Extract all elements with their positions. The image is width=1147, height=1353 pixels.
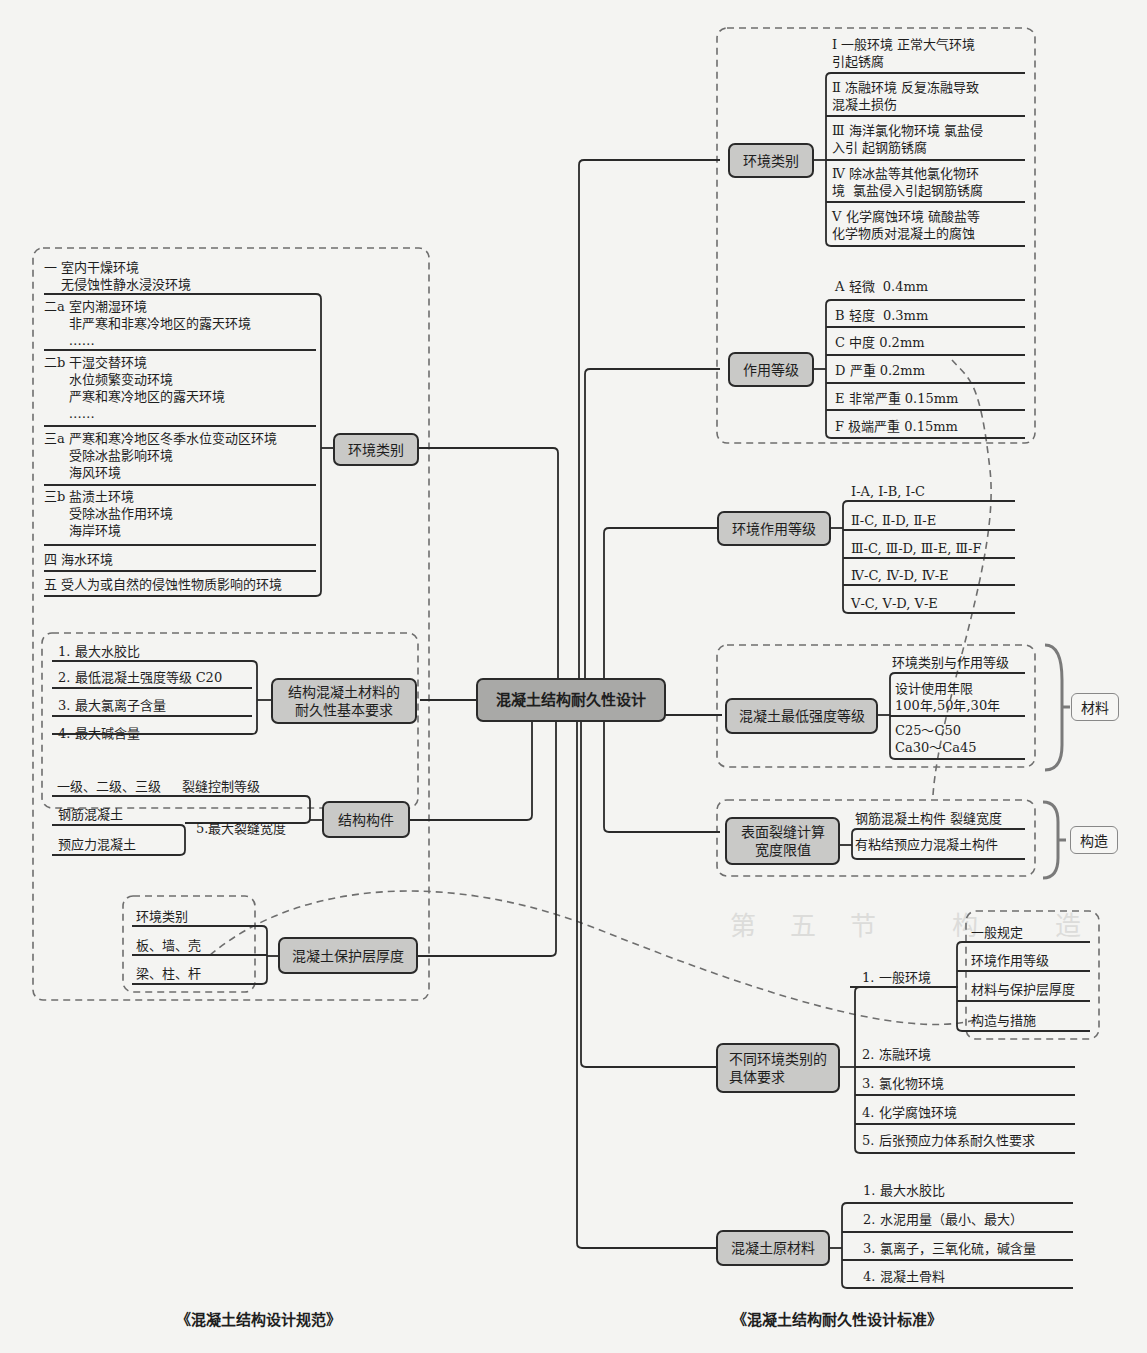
specific-req-node[interactable]: 不同环境类别的 具体要求 (716, 1043, 840, 1093)
left-env-category-node[interactable]: 环境类别 (333, 433, 419, 466)
raw-material-item: 2. 水泥用量（最小、最大） (863, 1211, 1023, 1228)
node-label: 混凝土原材料 (731, 1239, 815, 1257)
structure-tag: 构造 (1070, 826, 1118, 854)
left-env-item-1: 一 室内干燥环境 无侵蚀性静水浸没环境 (44, 259, 191, 293)
action-grade-item: C 中度 0.2mm (835, 334, 925, 351)
left-env-item-2b: 二b 干湿交替环境 水位频繁变动环境 严寒和寒冷地区的露天环境 …… (44, 354, 225, 422)
node-label: 环境作用等级 (732, 520, 816, 538)
node-label: 作用等级 (743, 361, 799, 379)
left-env-item-3a: 三a 严寒和寒冷地区冬季水位变动区环境 受除冰盐影响环境 海风环境 (44, 430, 277, 481)
node-label: 环境类别 (743, 152, 799, 170)
right-env-category-node[interactable]: 环境类别 (728, 143, 814, 178)
node-label: 结构混凝土材料的 耐久性基本要求 (288, 683, 400, 719)
max-crack-width: 5.最大裂缝宽度 (196, 820, 286, 837)
general-env-label: 1. 一般环境 (862, 969, 931, 986)
material-req-node[interactable]: 结构混凝土材料的 耐久性基本要求 (271, 678, 417, 724)
structural-member-node[interactable]: 结构构件 (322, 801, 410, 838)
general-env-item: 一般规定 (971, 924, 1023, 941)
crack-limit-node[interactable]: 表面裂缝计算 宽度限值 (725, 817, 840, 865)
action-grade-item: A 轻微 0.4mm (835, 278, 928, 295)
specific-req-item: 4. 化学腐蚀环境 (862, 1104, 957, 1121)
env-action-grade-item: Ⅱ-C, Ⅱ-D, Ⅱ-E (851, 512, 936, 529)
right-source-caption: 《混凝土结构耐久性设计标准》 (732, 1308, 942, 1329)
action-grade-node[interactable]: 作用等级 (728, 352, 814, 387)
crack-limit-item: 钢筋混凝土构件 裂缝宽度 (855, 810, 1002, 827)
env-action-grade-node[interactable]: 环境作用等级 (717, 511, 831, 546)
material-req-item: 4. 最大碱含量 (58, 725, 140, 742)
node-label: 表面裂缝计算 宽度限值 (741, 823, 825, 859)
specific-req-item: 5. 后张预应力体系耐久性要求 (862, 1132, 1035, 1149)
general-env-item: 环境作用等级 (971, 952, 1049, 969)
node-label: 不同环境类别的 具体要求 (729, 1050, 827, 1086)
crack-control-grade: 一级、二级、三级 裂缝控制等级 (57, 778, 260, 795)
specific-req-item: 2. 冻融环境 (862, 1046, 931, 1063)
cover-item: 环境类别 (136, 908, 188, 925)
left-source-caption: 《混凝土结构设计规范》 (176, 1308, 341, 1329)
general-env-item: 构造与措施 (971, 1012, 1036, 1029)
action-grade-item: E 非常严重 0.15mm (835, 390, 958, 407)
min-strength-node[interactable]: 混凝土最低强度等级 (725, 698, 878, 734)
action-grade-item: F 极端严重 0.15mm (835, 418, 958, 435)
right-env-item-III: Ⅲ 海洋氯化物环境 氯盐侵 入引 起钢筋锈腐 (832, 122, 983, 156)
min-strength-item: C25～C50 Ca30～Ca45 (895, 722, 976, 756)
right-env-item-V: Ⅴ 化学腐蚀环境 硫酸盐等 化学物质对混凝土的腐蚀 (832, 208, 980, 242)
left-env-item-5: 五 受人为或自然的侵蚀性物质影响的环境 (44, 576, 282, 593)
raw-material-item: 3. 氯离子，三氧化硫，碱含量 (863, 1240, 1036, 1257)
material-req-item: 1. 最大水胶比 (58, 643, 140, 660)
action-grade-item: B 轻度 0.3mm (835, 307, 928, 324)
material-req-item: 3. 最大氯离子含量 (58, 697, 166, 714)
right-env-item-IV: Ⅳ 除冰盐等其他氯化物环 境 氯盐侵入引起钢筋锈腐 (832, 165, 983, 199)
min-strength-item: 环境类别与作用等级 (892, 654, 1009, 671)
env-action-grade-item: Ⅳ-C, Ⅳ-D, Ⅳ-E (851, 567, 949, 584)
crack-limit-item: 有粘结预应力混凝土构件 (855, 836, 998, 853)
material-tag: 材料 (1071, 693, 1119, 721)
rc-concrete: 钢筋混凝土 (58, 806, 123, 823)
right-env-item-I: Ⅰ 一般环境 正常大气环境 引起锈腐 (832, 36, 975, 70)
node-label: 混凝土最低强度等级 (739, 707, 865, 725)
left-env-item-3b: 三b 盐渍土环境 受除冰盐作用环境 海岸环境 (44, 488, 173, 539)
cover-item: 板、墙、壳 (136, 937, 201, 954)
specific-req-item: 3. 氯化物环境 (862, 1075, 944, 1092)
left-env-item-4: 四 海水环境 (44, 551, 113, 568)
raw-material-node[interactable]: 混凝土原材料 (716, 1230, 830, 1266)
action-grade-item: D 严重 0.2mm (835, 362, 925, 379)
env-action-grade-item: Ⅴ-C, Ⅴ-D, Ⅴ-E (851, 595, 938, 612)
env-action-grade-item: Ⅰ-A, Ⅰ-B, Ⅰ-C (851, 483, 925, 500)
node-label: 混凝土保护层厚度 (292, 947, 404, 965)
raw-material-item: 1. 最大水胶比 (863, 1182, 945, 1199)
node-label: 结构构件 (338, 811, 394, 829)
material-req-item: 2. 最低混凝土强度等级 C20 (58, 669, 222, 686)
root-node[interactable]: 混凝土结构耐久性设计 (476, 678, 666, 722)
root-label: 混凝土结构耐久性设计 (496, 691, 646, 709)
min-strength-item: 设计使用年限 100年,50年,30年 (895, 680, 1000, 714)
node-label: 环境类别 (348, 441, 404, 459)
general-env-item: 材料与保护层厚度 (971, 981, 1075, 998)
prestressed-concrete: 预应力混凝土 (58, 836, 136, 853)
cover-thickness-node[interactable]: 混凝土保护层厚度 (278, 937, 418, 974)
raw-material-item: 4. 混凝土骨料 (863, 1268, 945, 1285)
left-env-item-2a: 二a 室内潮湿环境 非严寒和非寒冷地区的露天环境 …… (44, 298, 251, 349)
env-action-grade-item: Ⅲ-C, Ⅲ-D, Ⅲ-E, Ⅲ-F (851, 540, 981, 557)
right-env-item-II: Ⅱ 冻融环境 反复冻融导致 混凝土损伤 (832, 79, 979, 113)
cover-item: 梁、柱、杆 (136, 965, 201, 982)
